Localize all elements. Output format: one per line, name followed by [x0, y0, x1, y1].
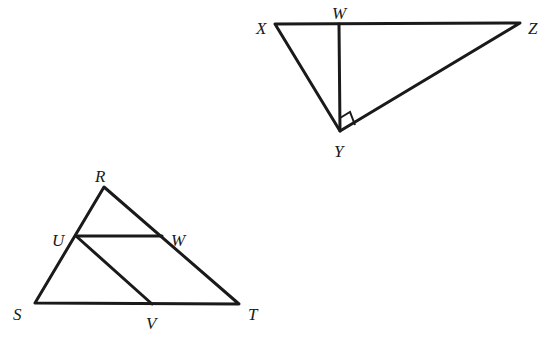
altitude-yw — [339, 24, 340, 131]
label-u: U — [52, 231, 66, 250]
triangle-rst-outline — [35, 187, 239, 304]
label-v: V — [146, 314, 159, 333]
label-y: Y — [334, 142, 345, 161]
label-w-top: W — [332, 4, 348, 23]
geometry-diagram: X W Z Y R U W S V T — [0, 0, 553, 346]
triangle-rst: R U W S V T — [13, 167, 259, 333]
label-x: X — [255, 19, 267, 38]
segment-uv — [76, 236, 152, 304]
triangle-xyz: X W Z Y — [255, 4, 538, 161]
label-s: S — [13, 305, 22, 324]
triangle-xyz-outline — [275, 23, 520, 131]
label-z: Z — [528, 19, 538, 38]
label-w-bottom: W — [171, 231, 187, 250]
label-r: R — [94, 167, 106, 186]
label-t: T — [248, 305, 259, 324]
